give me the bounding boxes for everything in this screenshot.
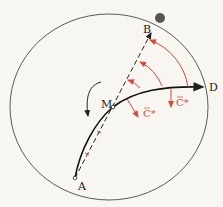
point-A-marker bbox=[73, 176, 77, 180]
coriolis-label-2: C* bbox=[176, 97, 189, 108]
svg-text:C*: C* bbox=[176, 97, 189, 108]
rotation-arrow-icon bbox=[87, 82, 101, 116]
label-D: D bbox=[209, 81, 218, 94]
svg-text:C*: C* bbox=[143, 108, 156, 119]
ball-icon bbox=[155, 13, 165, 23]
coriolis-diagram: A B M D C* C* bbox=[0, 0, 223, 207]
label-B: B bbox=[143, 23, 151, 36]
label-A: A bbox=[77, 180, 87, 193]
label-M: M bbox=[101, 98, 112, 111]
coriolis-label-1: C* bbox=[143, 108, 156, 119]
coriolis-force-arrow-1 bbox=[127, 99, 138, 117]
